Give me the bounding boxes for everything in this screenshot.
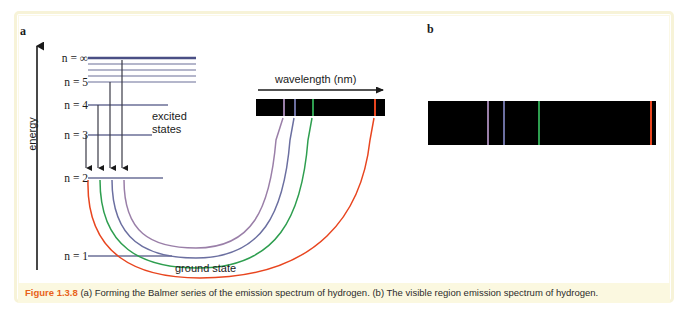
panel-b-violet-line: [487, 101, 489, 145]
wavelength-axis-label: wavelength (nm): [275, 73, 356, 85]
energy-level-diagram: [0, 0, 697, 320]
figure-caption: Figure 1.3.8 (a) Forming the Balmer seri…: [25, 287, 598, 298]
emission-curves: [88, 118, 374, 278]
energy-axis-label: energy: [26, 104, 38, 164]
energy-level-lines: [88, 58, 196, 256]
panel-b-red-line: [650, 101, 652, 145]
panel-a-green-line: [312, 99, 314, 116]
panel-a-red-line: [374, 99, 376, 116]
energy-level-label-4: n = 4: [44, 99, 88, 111]
energy-level-label-1: n = 1: [44, 250, 88, 262]
figure-caption-body: (a) Forming the Balmer series of the emi…: [78, 287, 598, 298]
panel-b-green-line: [538, 101, 540, 145]
energy-level-label-2: n = 2: [44, 172, 88, 184]
figure-number: Figure 1.3.8: [25, 287, 78, 298]
excited-states-line-0: excited: [152, 110, 187, 123]
energy-level-label-3: n = 3: [44, 129, 88, 141]
green-curve: [100, 118, 312, 268]
spectrum-bar-panel-b: [428, 101, 656, 145]
red-curve: [88, 118, 374, 278]
figure-root: a b: [0, 0, 697, 320]
excited-states-line-1: states: [152, 123, 187, 136]
panel-a-blue-violet-line: [294, 99, 296, 116]
ground-state-label: ground state: [175, 262, 236, 274]
energy-level-label-5: n = 5: [44, 76, 88, 88]
panel-a-violet-line: [283, 99, 285, 116]
violet-curve: [124, 118, 283, 248]
blue-violet-curve: [112, 118, 294, 258]
energy-level-label-infinity: n = ∞: [44, 52, 88, 64]
panel-b-blue-violet-line: [503, 101, 505, 145]
spectrum-bar-panel-a: [256, 99, 385, 116]
excited-states-label: excitedstates: [152, 110, 187, 136]
